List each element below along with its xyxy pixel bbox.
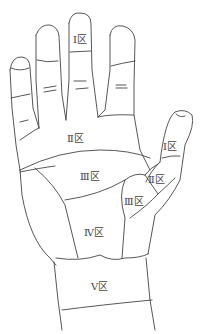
finger-zone1-label: Ⅰ区 [73, 34, 87, 45]
ring-finger [36, 25, 66, 128]
wrist-zone5-label: Ⅴ区 [90, 281, 108, 292]
thumb-zone2-label: Ⅱ区 [148, 174, 165, 185]
palm [20, 115, 150, 265]
hand-zone-diagram: Ⅰ区 Ⅱ区 Ⅲ区 Ⅳ区 Ⅴ区 Ⅰ区 Ⅱ区 Ⅲ区 [0, 0, 201, 334]
palm-zone4-label: Ⅳ区 [84, 227, 104, 238]
middle-finger [66, 13, 98, 120]
little-finger [10, 57, 39, 170]
thumb-zone1-label: Ⅰ区 [163, 141, 177, 152]
thumb-zone3-label: Ⅲ区 [124, 196, 144, 207]
wrist [54, 258, 155, 330]
palm-zone3-label: Ⅲ区 [80, 171, 100, 182]
palm-zone2-label: Ⅱ区 [67, 133, 84, 144]
index-finger [98, 26, 135, 117]
